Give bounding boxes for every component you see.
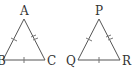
triangle-abc: A B C (0, 4, 56, 68)
vertex-label-b: B (0, 54, 6, 68)
triangle-pqr: P Q R (66, 4, 132, 68)
vertex-label-q: Q (66, 54, 76, 68)
vertex-label-a: A (19, 4, 29, 18)
vertex-label-r: R (122, 54, 132, 68)
vertex-label-c: C (47, 54, 56, 68)
triangles-diagram: A B C P Q R (0, 0, 133, 82)
vertex-label-p: P (95, 4, 103, 18)
